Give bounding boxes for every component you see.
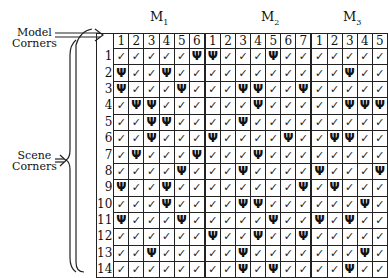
match-cell: ✓ (296, 98, 312, 114)
check-mark-icon: ✓ (238, 99, 247, 112)
psi-mark-icon: Ψ (208, 131, 218, 145)
check-mark-icon: ✓ (375, 132, 384, 145)
check-mark-icon: ✓ (147, 230, 156, 243)
match-cell: ✓ (129, 114, 144, 130)
match-cell: ✓ (372, 262, 387, 278)
match-cell: ✓ (220, 196, 235, 212)
multi-match-cell: Ψ (205, 130, 221, 146)
check-mark-icon: ✓ (238, 230, 247, 243)
psi-mark-icon: Ψ (146, 131, 156, 145)
match-cell: ✓ (342, 180, 357, 196)
check-mark-icon: ✓ (177, 263, 186, 276)
multi-match-cell: Ψ (266, 262, 281, 278)
psi-mark-icon: Ψ (146, 98, 156, 112)
psi-mark-icon: Ψ (345, 131, 355, 145)
column-header: 2 (129, 34, 144, 49)
check-mark-icon: ✓ (345, 149, 354, 162)
check-mark-icon: ✓ (269, 230, 278, 243)
match-cell: ✓ (144, 49, 159, 65)
check-mark-icon: ✓ (330, 198, 339, 211)
check-mark-icon: ✓ (162, 83, 171, 96)
check-mark-icon: ✓ (375, 214, 384, 227)
row-header: 7 (97, 147, 114, 163)
check-mark-icon: ✓ (117, 198, 126, 211)
check-mark-icon: ✓ (192, 198, 201, 211)
check-mark-icon: ✓ (299, 198, 308, 211)
multi-match-cell: Ψ (205, 229, 221, 245)
model-label-m2: M2 (261, 9, 279, 27)
match-cell: ✓ (189, 163, 205, 179)
match-cell: ✓ (311, 147, 327, 163)
column-header: 3 (342, 34, 357, 49)
check-mark-icon: ✓ (223, 116, 232, 129)
check-mark-icon: ✓ (269, 181, 278, 194)
check-mark-icon: ✓ (192, 230, 201, 243)
check-mark-icon: ✓ (117, 116, 126, 129)
psi-mark-icon: Ψ (345, 213, 355, 227)
check-mark-icon: ✓ (284, 165, 293, 178)
match-cell: ✓ (327, 81, 342, 97)
match-cell: ✓ (266, 81, 281, 97)
multi-match-cell: Ψ (251, 81, 266, 97)
table-row: 7✓Ψ✓✓✓Ψ✓✓✓Ψ✓✓✓✓✓✓✓✓ (97, 147, 388, 163)
check-mark-icon: ✓ (192, 214, 201, 227)
match-cell: ✓ (189, 98, 205, 114)
column-header: 2 (220, 34, 235, 49)
psi-mark-icon: Ψ (192, 148, 202, 162)
psi-mark-icon: Ψ (330, 180, 340, 194)
match-cell: ✓ (114, 229, 129, 245)
match-cell: ✓ (159, 98, 174, 114)
match-cell: ✓ (251, 262, 266, 278)
check-mark-icon: ✓ (192, 263, 201, 276)
psi-mark-icon: Ψ (253, 98, 263, 112)
match-cell: ✓ (311, 98, 327, 114)
brace-icon (66, 40, 76, 272)
match-cell: ✓ (296, 114, 312, 130)
multi-match-cell: Ψ (129, 98, 144, 114)
match-cell: ✓ (189, 262, 205, 278)
multi-match-cell: Ψ (236, 81, 251, 97)
multi-match-cell: Ψ (129, 147, 144, 163)
match-cell: ✓ (189, 65, 205, 81)
match-cell: ✓ (114, 262, 129, 278)
match-cell: ✓ (281, 245, 296, 261)
match-cell: ✓ (281, 49, 296, 65)
row-header: 14 (97, 262, 114, 278)
match-cell: ✓ (311, 114, 327, 130)
match-cell: ✓ (159, 130, 174, 146)
psi-mark-icon: Ψ (330, 131, 340, 145)
match-cell: ✓ (205, 245, 221, 261)
match-cell: ✓ (174, 130, 189, 146)
multi-match-cell: Ψ (174, 163, 189, 179)
multi-match-cell: Ψ (144, 130, 159, 146)
model-corners-line2: Corners (12, 38, 57, 49)
match-cell: ✓ (311, 229, 327, 245)
match-cell: ✓ (357, 180, 372, 196)
check-mark-icon: ✓ (177, 132, 186, 145)
check-mark-icon: ✓ (330, 67, 339, 80)
check-mark-icon: ✓ (238, 214, 247, 227)
match-cell: ✓ (342, 163, 357, 179)
psi-mark-icon: Ψ (177, 213, 187, 227)
match-cell: ✓ (144, 196, 159, 212)
match-cell: ✓ (357, 65, 372, 81)
multi-match-cell: Ψ (296, 180, 312, 196)
check-mark-icon: ✓ (147, 50, 156, 63)
check-mark-icon: ✓ (315, 83, 324, 96)
match-cell: ✓ (236, 98, 251, 114)
check-mark-icon: ✓ (177, 116, 186, 129)
check-mark-icon: ✓ (117, 149, 126, 162)
table-row: 11Ψ✓✓✓Ψ✓✓✓✓✓Ψ✓✓Ψ✓Ψ✓✓ (97, 212, 388, 228)
match-cell: ✓ (327, 212, 342, 228)
check-mark-icon: ✓ (117, 263, 126, 276)
match-cell: ✓ (220, 245, 235, 261)
check-mark-icon: ✓ (284, 99, 293, 112)
match-cell: ✓ (296, 163, 312, 179)
match-cell: ✓ (266, 245, 281, 261)
scene-corners-label: Scene Corners (12, 150, 57, 172)
check-mark-icon: ✓ (345, 181, 354, 194)
multi-match-cell: Ψ (144, 245, 159, 261)
table-row: 9Ψ✓✓Ψ✓✓✓✓✓✓✓✓Ψ✓Ψ✓✓✓ (97, 180, 388, 196)
match-cell: ✓ (342, 147, 357, 163)
match-cell: ✓ (372, 65, 387, 81)
